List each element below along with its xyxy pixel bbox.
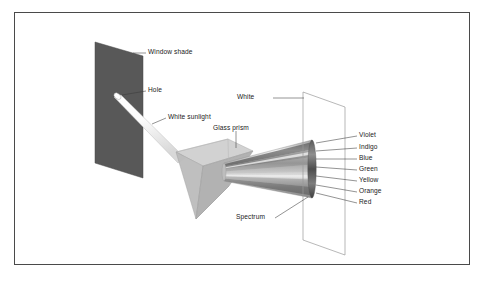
prism-dispersion-illustration (0, 0, 487, 285)
label-red: Red (359, 199, 371, 206)
label-white-sunlight: White sunlight (168, 114, 211, 121)
label-white: White (237, 94, 254, 101)
label-spectrum: Spectrum (236, 214, 265, 221)
label-hole: Hole (148, 87, 162, 94)
label-green: Green (359, 166, 378, 173)
label-orange: Orange (359, 188, 382, 195)
figure-canvas: Window shade Hole White sunlight Glass p… (0, 0, 487, 285)
label-indigo: Indigo (359, 144, 378, 151)
label-glass-prism: Glass prism (213, 125, 249, 132)
label-blue: Blue (359, 155, 373, 162)
label-window-shade: Window shade (148, 49, 192, 56)
spectrum-end-cap (308, 140, 316, 198)
label-violet: Violet (359, 132, 376, 139)
label-yellow: Yellow (359, 177, 378, 184)
